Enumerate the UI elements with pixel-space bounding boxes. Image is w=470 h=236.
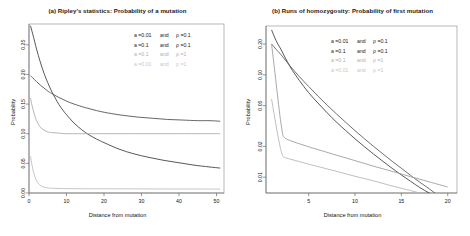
x-tick-label: 20 xyxy=(445,198,451,204)
legend-param-rho: ρ =0.1 xyxy=(176,31,191,41)
x-tick-label: 15 xyxy=(398,198,404,204)
legend-param-a: a =0.1 xyxy=(134,41,160,51)
legend-entry: a =0.1andρ =1 xyxy=(134,50,191,60)
legend-conjunction: and xyxy=(160,41,176,51)
legend-conjunction: and xyxy=(357,66,373,76)
legend-entry: a =0.1andρ =0.1 xyxy=(134,41,191,51)
legend-param-rho: ρ =0.1 xyxy=(373,37,388,47)
legend-param-a: a =0.1 xyxy=(134,50,160,60)
legend-conjunction: and xyxy=(160,50,176,60)
panel-a-plot: 0.000.050.100.150.200.2501020304050 xyxy=(0,0,235,236)
legend-entry: a =0.01andρ =1 xyxy=(134,60,191,70)
y-tick-label: 0.01 xyxy=(257,172,263,182)
legend-conjunction: and xyxy=(160,60,176,70)
y-tick-label: 0.10 xyxy=(257,70,263,80)
legend-param-a: a =0.01 xyxy=(134,31,160,41)
legend-entry: a =0.01andρ =1 xyxy=(331,66,388,76)
legend-param-a: a =0.1 xyxy=(331,56,357,66)
panel-a-xlabel: Distance from mutation xyxy=(0,212,235,218)
x-tick-label: 20 xyxy=(101,198,107,204)
legend-param-rho: ρ =1 xyxy=(373,56,383,66)
legend-entry: a =0.1andρ =0.1 xyxy=(331,47,388,57)
x-tick-label: 30 xyxy=(139,198,145,204)
legend-entry: a =0.01andρ =0.1 xyxy=(331,37,388,47)
legend-entry: a =0.1andρ =1 xyxy=(331,56,388,66)
legend-param-a: a =0.01 xyxy=(331,37,357,47)
legend-conjunction: and xyxy=(357,47,373,57)
x-tick-label: 5 xyxy=(307,198,310,204)
legend-conjunction: and xyxy=(160,31,176,41)
legend-param-rho: ρ =0.1 xyxy=(373,47,388,57)
y-tick-label: 0.20 xyxy=(20,69,26,79)
legend-param-a: a =0.1 xyxy=(331,47,357,57)
legend-param-rho: ρ =1 xyxy=(176,60,186,70)
data-curve xyxy=(272,99,448,201)
panel-a-legend: a =0.01andρ =0.1a =0.1andρ =0.1a =0.1and… xyxy=(134,31,191,69)
legend-param-a: a =0.01 xyxy=(331,66,357,76)
panel-a: (a) Ripley's statistics: Probability of … xyxy=(0,0,235,236)
panel-b-legend: a =0.01andρ =0.1a =0.1andρ =0.1a =0.1and… xyxy=(331,37,388,75)
figure-container: (a) Ripley's statistics: Probability of … xyxy=(0,0,470,236)
legend-param-rho: ρ =1 xyxy=(373,66,383,76)
x-tick-label: 0 xyxy=(28,198,31,204)
y-tick-label: 0.20 xyxy=(257,39,263,49)
y-tick-label: 0.05 xyxy=(20,158,26,168)
panel-b-xlabel: Distance from mutation xyxy=(235,212,470,218)
panel-b-plot: 0.010.020.050.100.205101520 xyxy=(235,0,470,236)
panel-b-ylabel: Probability xyxy=(245,99,251,125)
legend-conjunction: and xyxy=(357,56,373,66)
legend-param-rho: ρ =1 xyxy=(176,50,186,60)
data-curve xyxy=(31,26,221,168)
y-tick-label: 0.02 xyxy=(257,141,263,151)
data-curve xyxy=(31,156,221,189)
y-tick-label: 0.05 xyxy=(257,100,263,110)
y-tick-label: 0.10 xyxy=(20,129,26,139)
panel-a-ylabel: Probability xyxy=(10,99,16,125)
x-tick-label: 50 xyxy=(214,198,220,204)
panel-b: (b) Runs of homozygosity: Probability of… xyxy=(235,0,470,236)
x-tick-label: 10 xyxy=(352,198,358,204)
legend-param-rho: ρ =0.1 xyxy=(176,41,191,51)
data-curve xyxy=(31,76,221,122)
y-tick-label: 0.15 xyxy=(20,99,26,109)
x-tick-label: 10 xyxy=(64,198,70,204)
plot-frame xyxy=(29,24,224,193)
y-tick-label: 0.25 xyxy=(20,40,26,50)
legend-param-a: a =0.01 xyxy=(134,60,160,70)
y-tick-label: 0.00 xyxy=(20,188,26,198)
x-tick-label: 40 xyxy=(176,198,182,204)
legend-conjunction: and xyxy=(357,37,373,47)
legend-entry: a =0.01andρ =0.1 xyxy=(134,31,191,41)
